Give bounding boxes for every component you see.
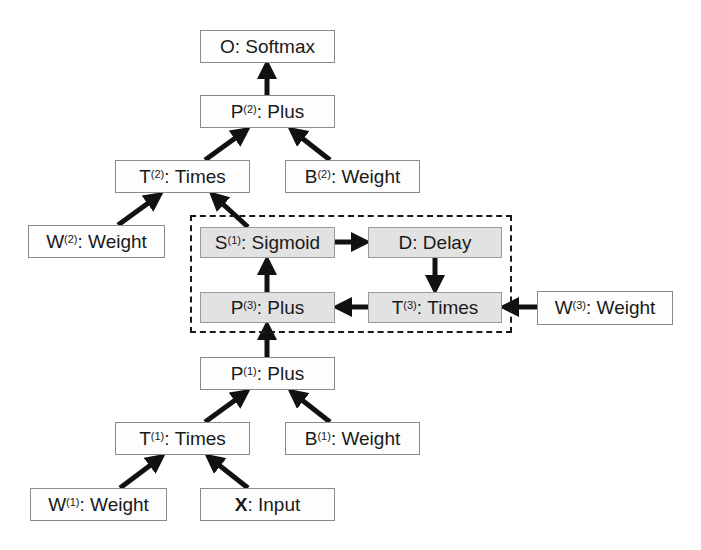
node-symbol: B [305,166,318,188]
node-separator: : [164,428,175,450]
node-op: Times [427,297,478,319]
node-symbol: T [139,428,151,450]
node-op: Weight [88,231,147,253]
node-symbol: O [220,36,235,58]
node-separator: : [412,232,423,254]
node-bias2[interactable]: B(2): Weight [285,160,420,193]
node-symbol: B [305,428,318,450]
node-times2[interactable]: T(2): Times [115,160,250,193]
node-op: Plus [267,297,304,319]
node-separator: : [257,101,268,123]
node-separator: : [235,36,246,58]
node-op: Weight [597,297,656,319]
edge-weight2-times2 [118,196,158,225]
node-op: Input [258,494,300,516]
edge-input-times1 [210,458,248,488]
node-separator: : [586,297,597,319]
node-delay[interactable]: D: Delay [368,227,502,258]
node-symbol: W [48,494,66,516]
node-separator: : [331,166,342,188]
node-op: Softmax [245,36,315,58]
node-symbol: T [392,297,404,319]
node-op: Times [175,166,226,188]
node-weight3[interactable]: W(3): Weight [537,291,673,325]
node-symbol: W [46,231,64,253]
node-plus3[interactable]: P(3): Plus [200,292,335,323]
node-separator: : [331,428,342,450]
node-times1[interactable]: T(1): Times [115,422,250,455]
edge-times2-plus2 [205,131,245,160]
edge-times1-plus1 [205,393,245,422]
node-op: Plus [267,101,304,123]
node-separator: : [164,166,175,188]
node-op: Weight [90,494,149,516]
node-op: Weight [341,428,400,450]
node-op: Weight [341,166,400,188]
node-plus2[interactable]: P(2): Plus [200,95,335,128]
node-symbol: S [215,232,228,254]
node-op: Plus [267,363,304,385]
node-separator: : [247,494,258,516]
node-symbol: P [231,363,244,385]
node-separator: : [241,232,252,254]
node-symbol: D [399,232,413,254]
node-separator: : [80,494,91,516]
node-op: Sigmoid [252,232,321,254]
edge-bias1-plus1 [293,393,330,422]
edge-weight1-times1 [120,458,160,488]
node-op: Delay [423,232,472,254]
node-plus1[interactable]: P(1): Plus [200,357,335,390]
node-weight1[interactable]: W(1): Weight [30,488,167,521]
edge-bias2-plus2 [293,131,330,160]
node-symbol: P [231,297,244,319]
node-separator: : [257,297,268,319]
node-separator: : [257,363,268,385]
node-sigmoid1[interactable]: S(1): Sigmoid [200,227,335,258]
node-symbol: P [231,101,244,123]
node-separator: : [417,297,428,319]
node-weight2[interactable]: W(2): Weight [28,225,165,258]
node-symbol: X [235,494,248,516]
node-symbol: T [139,166,151,188]
node-input[interactable]: X: Input [200,488,335,521]
node-symbol: W [555,297,573,319]
node-bias1[interactable]: B(1): Weight [285,422,420,455]
node-separator: : [78,231,89,253]
node-op: Times [175,428,226,450]
node-softmax[interactable]: O: Softmax [200,30,335,63]
node-times3[interactable]: T(3): Times [368,292,502,323]
